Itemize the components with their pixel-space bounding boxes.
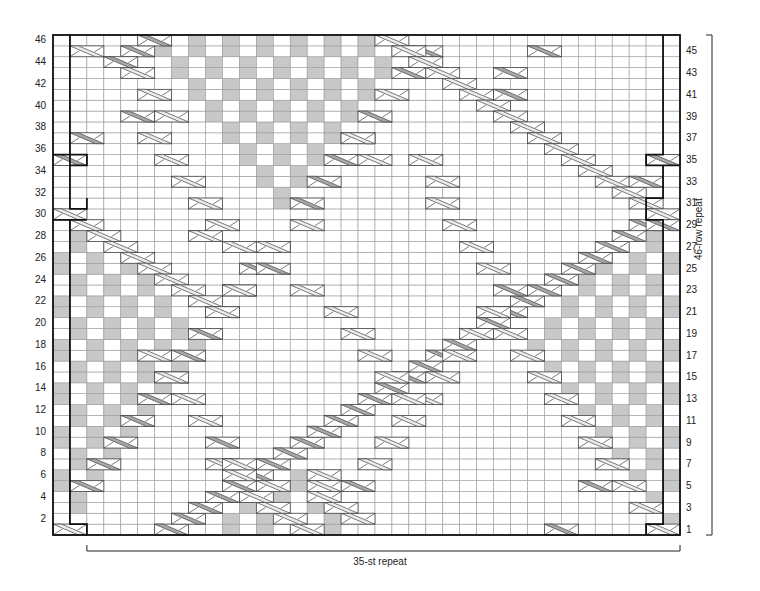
row-label-left: 38 xyxy=(24,121,46,132)
row-label-left: 24 xyxy=(24,274,46,285)
row-label-right: 5 xyxy=(686,480,708,491)
row-label-left: 26 xyxy=(24,252,46,263)
row-label-right: 37 xyxy=(686,132,708,143)
knitting-chart xyxy=(0,0,760,591)
row-label-left: 28 xyxy=(24,230,46,241)
row-label-left: 32 xyxy=(24,187,46,198)
row-label-right: 15 xyxy=(686,371,708,382)
row-label-left: 42 xyxy=(24,78,46,89)
stitch-repeat-bracket xyxy=(87,545,680,551)
row-label-right: 13 xyxy=(686,393,708,404)
row-label-right: 11 xyxy=(686,415,708,426)
row-label-right: 17 xyxy=(686,350,708,361)
row-label-left: 40 xyxy=(24,100,46,111)
row-label-left: 22 xyxy=(24,295,46,306)
stitch-repeat-label: 35-st repeat xyxy=(300,556,460,567)
row-label-right: 45 xyxy=(686,45,708,56)
row-label-left: 14 xyxy=(24,382,46,393)
row-label-right: 43 xyxy=(686,67,708,78)
row-label-left: 18 xyxy=(24,339,46,350)
row-label-left: 2 xyxy=(24,513,46,524)
row-label-right: 25 xyxy=(686,263,708,274)
row-label-left: 34 xyxy=(24,165,46,176)
row-label-left: 6 xyxy=(24,469,46,480)
row-label-left: 12 xyxy=(24,404,46,415)
row-label-right: 9 xyxy=(686,437,708,448)
row-label-left: 46 xyxy=(24,34,46,45)
row-label-left: 44 xyxy=(24,56,46,67)
row-label-left: 36 xyxy=(24,143,46,154)
row-repeat-label: 46-row repeat xyxy=(693,198,704,260)
row-label-left: 10 xyxy=(24,426,46,437)
row-label-right: 7 xyxy=(686,458,708,469)
row-label-right: 23 xyxy=(686,284,708,295)
row-label-right: 3 xyxy=(686,502,708,513)
row-label-right: 19 xyxy=(686,328,708,339)
row-label-right: 39 xyxy=(686,111,708,122)
row-label-right: 41 xyxy=(686,89,708,100)
row-label-left: 16 xyxy=(24,361,46,372)
row-label-right: 21 xyxy=(686,306,708,317)
row-label-right: 33 xyxy=(686,176,708,187)
row-label-left: 30 xyxy=(24,208,46,219)
row-label-left: 8 xyxy=(24,447,46,458)
row-label-right: 1 xyxy=(686,524,708,535)
row-label-left: 20 xyxy=(24,317,46,328)
row-label-right: 35 xyxy=(686,154,708,165)
row-label-left: 4 xyxy=(24,491,46,502)
